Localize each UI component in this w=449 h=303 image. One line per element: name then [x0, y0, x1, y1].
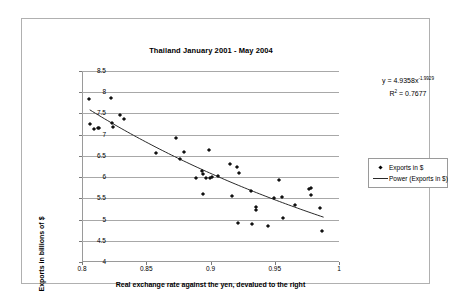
- y-axis-title-wrap: Exports in billions of $: [55, 166, 56, 167]
- legend-label-power: Power (Exports in $): [389, 175, 448, 182]
- chart-legend[interactable]: Exports in $ Power (Exports in $): [368, 158, 448, 188]
- x-tick-label: 0.95: [255, 265, 295, 272]
- y-tick-label: 6: [66, 173, 106, 180]
- x-axis-title: Real exchange rate against the yen, deva…: [82, 281, 339, 288]
- y-tick-label: 4.5: [66, 237, 106, 244]
- equation-exponent: -1.9929: [418, 76, 434, 81]
- legend-item-exports[interactable]: Exports in $: [372, 162, 444, 173]
- r-squared-value: R2 = 0.7677: [366, 86, 449, 99]
- legend-item-power-trendline[interactable]: Power (Exports in $): [372, 173, 444, 184]
- x-tick-label: 1: [319, 265, 359, 272]
- y-tick-label: 7.5: [66, 109, 106, 116]
- y-tick-label: 6.5: [66, 152, 106, 159]
- chart-frame: Thailand January 2001 - May 2004 y = 4.9…: [21, 18, 430, 284]
- y-tick-label: 8.5: [66, 67, 106, 74]
- line-marker-icon: [372, 178, 389, 179]
- y-tick-label: 5: [66, 216, 106, 223]
- y-tick-label: 4: [66, 258, 106, 265]
- y-axis-title: Exports in billions of $: [38, 216, 45, 291]
- x-tick-label: 0.8: [62, 265, 102, 272]
- trendline-equation-annotation: y = 4.9358x-1.9929 R2 = 0.7677: [366, 73, 449, 100]
- diamond-marker-icon: [372, 166, 389, 169]
- power-equation: y = 4.9358x-1.9929: [366, 73, 449, 86]
- y-tick-label: 7: [66, 131, 106, 138]
- power-trendline: [82, 71, 339, 262]
- chart-title: Thailand January 2001 - May 2004: [82, 46, 340, 55]
- x-tick-label: 0.85: [126, 265, 166, 272]
- y-tick-label: 8: [66, 88, 106, 95]
- plot-area: [82, 71, 339, 262]
- y-tick-label: 5.5: [66, 194, 106, 201]
- x-tick-label: 0.9: [191, 265, 231, 272]
- legend-label-exports: Exports in $: [389, 164, 423, 171]
